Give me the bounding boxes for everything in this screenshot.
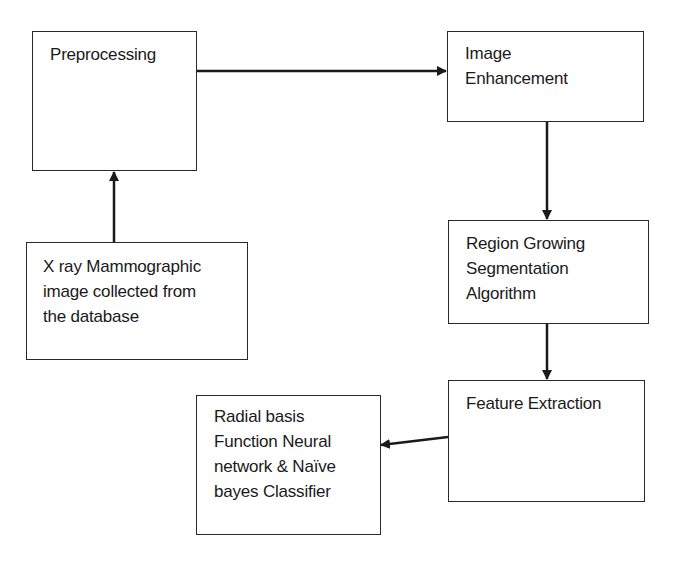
label-line: Algorithm — [466, 281, 585, 306]
label-line: Function Neural — [214, 429, 336, 454]
node-classifier-label: Radial basis Function Neural network & N… — [214, 404, 336, 504]
node-region-growing-segmentation-label: Region Growing Segmentation Algorithm — [466, 231, 585, 306]
node-xray-input-label: X ray Mammographic image collected from … — [43, 254, 201, 329]
node-preprocessing-label: Preprocessing — [50, 42, 156, 67]
label-line: network & Naïve — [214, 454, 336, 479]
label-line: bayes Classifier — [214, 479, 336, 504]
label-line: Segmentation — [466, 256, 585, 281]
label-line: Enhancement — [465, 66, 568, 91]
label-line: Feature Extraction — [466, 391, 601, 416]
label-line: image collected from — [43, 279, 201, 304]
label-line: Preprocessing — [50, 42, 156, 67]
node-feature-extraction-label: Feature Extraction — [466, 391, 601, 416]
label-line: the database — [43, 304, 201, 329]
label-line: Image — [465, 41, 568, 66]
label-line: X ray Mammographic — [43, 254, 201, 279]
label-line: Region Growing — [466, 231, 585, 256]
node-image-enhancement-label: Image Enhancement — [465, 41, 568, 91]
arrow-features-to-classifier — [381, 437, 448, 445]
label-line: Radial basis — [214, 404, 336, 429]
